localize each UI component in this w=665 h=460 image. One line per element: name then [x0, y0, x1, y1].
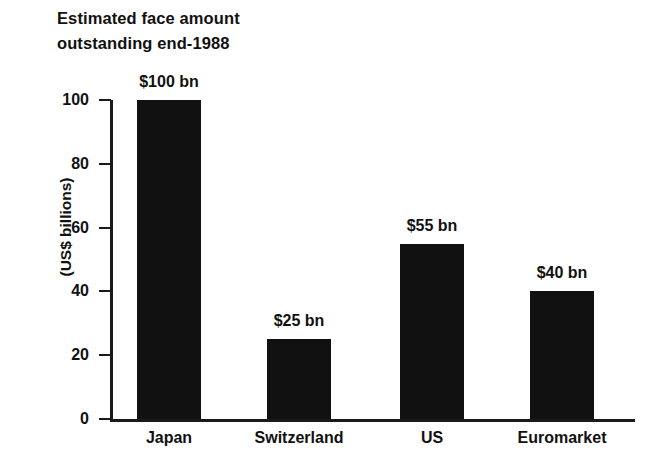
- chart-title: Estimated face amount outstanding end-19…: [57, 6, 477, 56]
- y-axis-tick-label: 0: [17, 411, 89, 427]
- y-axis-tick: [99, 354, 111, 356]
- y-axis-tick-label: 20: [17, 347, 89, 363]
- y-axis-tick: [99, 290, 111, 292]
- bar-value-label: $55 bn: [372, 218, 492, 234]
- bar: [137, 100, 201, 419]
- y-axis-tick-label: 40: [17, 283, 89, 299]
- y-axis-tick-label: 80: [17, 156, 89, 172]
- bar: [267, 339, 331, 419]
- x-axis-line: [110, 419, 635, 422]
- x-axis-category-label: Switzerland: [229, 429, 369, 447]
- y-axis-tick: [99, 418, 111, 420]
- y-axis-tick-label: 100: [17, 92, 89, 108]
- bar: [400, 244, 464, 419]
- y-axis-tick-label: 60: [17, 220, 89, 236]
- y-axis-line: [110, 100, 113, 421]
- x-axis-category-label: US: [362, 429, 502, 447]
- bar-value-label: $40 bn: [502, 265, 622, 281]
- x-axis-category-label: Euromarket: [492, 429, 632, 447]
- bar-value-label: $100 bn: [109, 74, 229, 90]
- y-axis-tick: [99, 99, 111, 101]
- bar-value-label: $25 bn: [239, 313, 359, 329]
- bar: [530, 291, 594, 419]
- bar-chart: Estimated face amount outstanding end-19…: [0, 0, 665, 460]
- y-axis-tick: [99, 227, 111, 229]
- y-axis-tick: [99, 163, 111, 165]
- x-axis-category-label: Japan: [99, 429, 239, 447]
